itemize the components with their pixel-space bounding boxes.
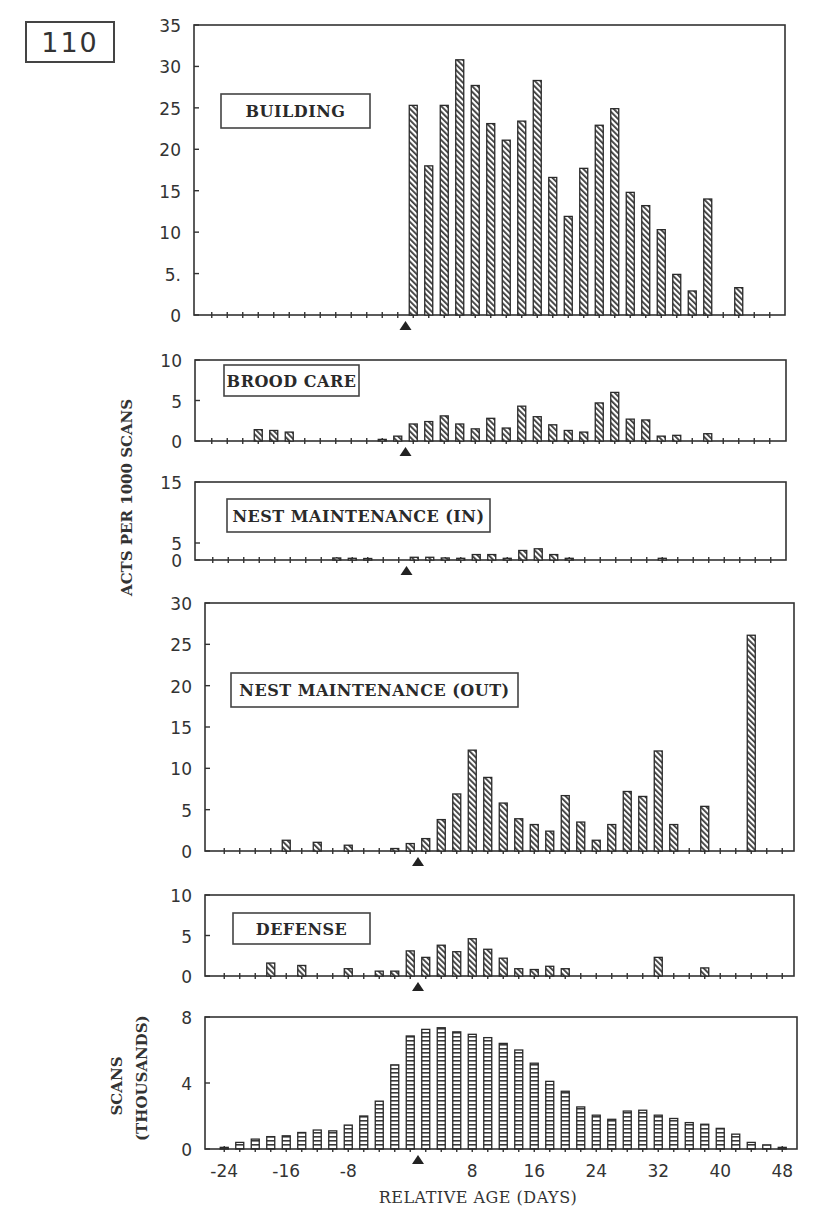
bar: [611, 109, 619, 315]
bar: [639, 796, 647, 851]
chart-panels: 05.101520253035BUILDING 0510BROOD CARE 0…: [0, 0, 817, 1222]
bar: [670, 1118, 678, 1149]
bar: [778, 1147, 786, 1149]
y-tick-label: 10: [170, 886, 192, 906]
bar: [375, 971, 383, 976]
bar: [565, 558, 573, 560]
bar: [282, 1136, 290, 1149]
y-tick-label: 5.: [165, 265, 181, 285]
y-tick-label: 25: [159, 99, 181, 119]
bar: [499, 803, 507, 851]
bar: [270, 430, 278, 441]
bar: [329, 1131, 337, 1149]
bar: [515, 819, 523, 851]
x-tick-label: -24: [210, 1161, 238, 1181]
bar: [344, 1125, 352, 1149]
bar: [515, 969, 523, 976]
panel-brood-care: 0510BROOD CARE: [160, 351, 786, 456]
panel-title: DEFENSE: [256, 920, 348, 939]
bar: [484, 777, 492, 851]
bar: [561, 1091, 569, 1149]
bar: [642, 206, 650, 315]
panel-title: BROOD CARE: [227, 372, 357, 391]
bar: [763, 1145, 771, 1149]
y-tick-label: 5: [181, 927, 192, 947]
y-tick-label: 20: [159, 140, 181, 160]
bar: [471, 429, 479, 441]
bar: [453, 794, 461, 851]
bar: [267, 963, 275, 976]
bar: [654, 751, 662, 851]
bar: [534, 549, 542, 560]
bar: [530, 970, 538, 976]
bar: [313, 1130, 321, 1149]
bar: [519, 550, 527, 560]
y-tick-label: 0: [171, 551, 182, 571]
bar: [267, 1137, 275, 1149]
bar: [654, 957, 662, 976]
y-tick-label: 0: [181, 1140, 192, 1160]
bar: [502, 428, 510, 441]
bar: [499, 958, 507, 976]
y-tick-label: 5: [181, 801, 192, 821]
bar: [549, 425, 557, 441]
eclosion-marker-icon: [400, 321, 412, 330]
bar: [670, 825, 678, 851]
bar: [577, 822, 585, 851]
bar: [580, 168, 588, 315]
eclosion-marker-icon: [412, 982, 424, 991]
bar: [701, 806, 709, 851]
bar: [673, 274, 681, 315]
bar: [657, 230, 665, 315]
panel-building: 05.101520253035BUILDING: [159, 16, 785, 330]
bar: [623, 791, 631, 851]
bar: [550, 555, 558, 560]
y-tick-label: 10: [159, 223, 181, 243]
y-tick-label: 15: [160, 473, 182, 493]
bar: [360, 1116, 368, 1149]
bar: [530, 825, 538, 851]
eclosion-marker-icon: [401, 566, 413, 575]
panel-nest-maintenance-out: 051015202530NEST MAINTENANCE (OUT): [170, 594, 794, 866]
bar: [608, 1119, 616, 1149]
panel-title: BUILDING: [246, 102, 346, 121]
bar: [735, 288, 743, 315]
bar: [254, 430, 262, 441]
bar: [333, 558, 341, 560]
bar: [440, 416, 448, 441]
bar: [344, 969, 352, 976]
bar: [626, 419, 634, 441]
bar: [344, 845, 352, 851]
bar: [502, 140, 510, 315]
bar: [422, 1029, 430, 1149]
bar: [437, 1028, 445, 1149]
bar: [487, 418, 495, 441]
y-tick-label: 15: [159, 182, 181, 202]
panel-defense: 0510DEFENSE: [170, 886, 794, 991]
bar: [549, 177, 557, 315]
bar: [701, 1124, 709, 1149]
bar: [716, 1128, 724, 1149]
bar: [701, 968, 709, 976]
bar: [409, 424, 417, 441]
bar: [704, 434, 712, 441]
y-tick-label: 30: [159, 57, 181, 77]
bar: [251, 1139, 259, 1149]
bar: [425, 422, 433, 441]
bar: [642, 420, 650, 441]
x-tick-label: 48: [771, 1161, 793, 1181]
bar: [426, 557, 434, 560]
bar: [747, 635, 755, 851]
bar: [406, 844, 414, 851]
bar: [453, 1032, 461, 1149]
bar: [348, 558, 356, 560]
x-tick-label: 24: [585, 1161, 607, 1181]
y-tick-label: 0: [181, 967, 192, 987]
bar: [440, 105, 448, 315]
bar: [456, 424, 464, 441]
bar: [409, 105, 417, 315]
bar: [685, 1123, 693, 1149]
panel-title: NEST MAINTENANCE (IN): [232, 507, 484, 526]
x-tick-label: -8: [340, 1161, 357, 1181]
y-tick-label: 10: [170, 759, 192, 779]
